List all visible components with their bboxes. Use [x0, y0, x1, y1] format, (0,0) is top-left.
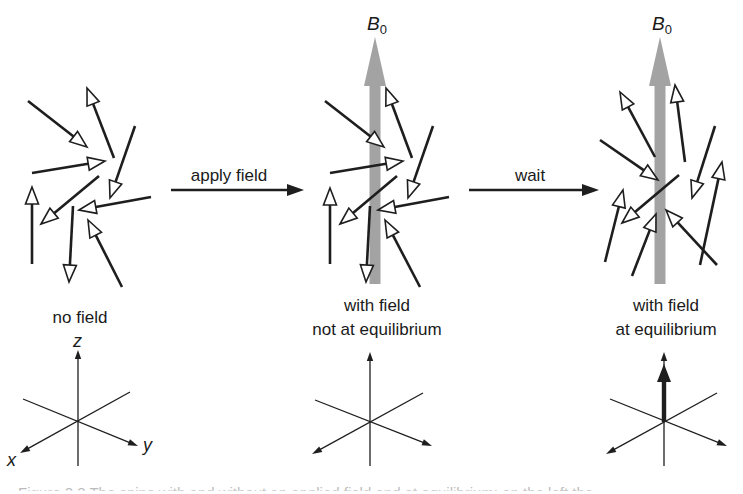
spin-arrow: [79, 197, 151, 213]
diagram-canvas: [0, 0, 743, 494]
spin-arrowhead-icon: [671, 85, 684, 103]
spin-arrowhead-icon: [385, 157, 403, 170]
spin-group-not-equilibrium: [324, 88, 450, 287]
spin-arrowhead-icon: [63, 265, 76, 282]
spin-arrow: [26, 187, 39, 264]
spin-arrowhead-icon: [324, 188, 337, 205]
x-axis-arrowhead-icon: [20, 445, 30, 453]
axes-not-equilibrium: [312, 352, 432, 466]
spin-arrow: [407, 126, 433, 198]
spin-arrow: [87, 88, 114, 158]
spin-arrow: [691, 126, 715, 198]
spin-arrow: [605, 190, 625, 262]
spin-arrow: [330, 157, 403, 173]
b0-field-arrow-at-equilibrium: [649, 37, 671, 284]
magnetization-arrowhead-icon: [657, 364, 671, 382]
spin-arrowhead-icon: [70, 131, 87, 147]
transition-label-0: apply field: [191, 166, 268, 186]
b0-field-label: B0: [367, 14, 387, 40]
spin-arrowhead-icon: [87, 88, 99, 106]
spin-arrowhead-icon: [88, 220, 101, 238]
panel-label-no-field: no field: [53, 308, 108, 328]
spin-arrow: [28, 101, 87, 147]
z-axis-arrowhead-icon: [75, 350, 81, 359]
spin-arrow: [378, 197, 449, 213]
axes-no-field: [20, 350, 138, 466]
b0-field-label: B0: [652, 14, 672, 40]
transition-label-1: wait: [515, 166, 545, 186]
x-axis-label: x: [7, 451, 16, 469]
x-axis-arrowhead-icon: [606, 446, 616, 454]
spin-arrow: [324, 188, 337, 264]
z-axis-arrowhead-icon: [661, 352, 667, 361]
z-axis-label: z: [73, 332, 82, 350]
spin-arrowhead-icon: [407, 180, 419, 198]
spin-arrowhead-icon: [385, 220, 399, 238]
spin-arrowhead-icon: [620, 92, 634, 110]
spin-group-no-field: [26, 88, 152, 287]
b0-arrowhead-icon: [649, 37, 671, 86]
spin-arrow: [620, 92, 655, 157]
panel-label-at-equilibrium: with field: [633, 296, 699, 316]
y-axis-arrowhead-icon: [422, 439, 432, 446]
b0-symbol: B: [367, 13, 380, 34]
transition-arrowhead-icon: [582, 184, 599, 196]
spin-arrow: [32, 157, 105, 173]
panel-label-at-equilibrium: at equilibrium: [615, 320, 716, 340]
spin-arrow: [386, 88, 412, 158]
y-axis-arrowhead-icon: [128, 439, 138, 446]
spin-arrowhead-icon: [87, 157, 105, 170]
spin-arrowhead-icon: [691, 180, 703, 198]
spin-arrow: [63, 206, 76, 282]
spin-arrowhead-icon: [26, 187, 39, 204]
b0-subscript: 0: [665, 22, 672, 37]
spin-arrowhead-icon: [367, 131, 384, 147]
panel-label-not-equilibrium: not at equilibrium: [312, 320, 441, 340]
b0-subscript: 0: [380, 22, 387, 37]
spin-arrowhead-icon: [386, 88, 398, 106]
spin-arrowhead-icon: [378, 201, 396, 214]
b0-arrowhead-icon: [364, 37, 386, 86]
spin-arrowhead-icon: [613, 190, 626, 208]
spin-arrowhead-icon: [109, 180, 121, 198]
panel-label-not-equilibrium: with field: [344, 296, 410, 316]
transition-arrowhead-icon: [287, 184, 304, 196]
y-axis-arrowhead-icon: [717, 439, 727, 446]
spin-arrow: [109, 126, 135, 198]
axes-at-equilibrium: [606, 352, 727, 466]
spin-arrow: [632, 214, 656, 276]
spin-arrowhead-icon: [79, 201, 97, 214]
spin-arrowhead-icon: [712, 162, 725, 180]
spin-arrow: [41, 176, 99, 224]
spin-magnetization-diagram: no fieldzxyB0with fieldnot at equilibriu…: [0, 0, 743, 494]
spin-arrow: [671, 85, 685, 162]
z-axis-arrowhead-icon: [367, 352, 373, 361]
y-axis-label: y: [143, 436, 152, 454]
net-magnetization-arrow: [657, 364, 671, 422]
b0-symbol: B: [652, 13, 665, 34]
spin-arrow: [88, 220, 122, 287]
spin-arrow: [385, 220, 420, 287]
spin-arrowhead-icon: [644, 214, 656, 232]
x-axis-arrowhead-icon: [312, 446, 322, 454]
